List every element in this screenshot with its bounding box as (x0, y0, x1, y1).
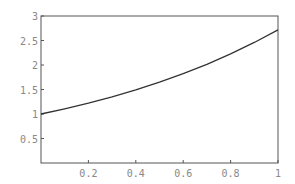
y-tick-label: 1 (32, 109, 38, 120)
y-tick-label: 3 (32, 11, 38, 22)
y-axis-ticks: 0.511.522.53 (20, 11, 44, 145)
x-tick-label: 0.4 (127, 168, 145, 179)
series-line-exp (41, 30, 278, 114)
x-tick-label: 0.2 (79, 168, 97, 179)
x-tick-label: 0.6 (174, 168, 192, 179)
x-tick-label: 0.8 (222, 168, 240, 179)
y-tick-label: 2.5 (20, 36, 38, 47)
x-tick-label: 1 (275, 168, 281, 179)
line-chart: 0.20.40.60.81 0.511.522.53 (0, 0, 295, 184)
y-tick-label: 0.5 (20, 134, 38, 145)
y-tick-label: 2 (32, 60, 38, 71)
y-tick-label: 1.5 (20, 85, 38, 96)
plot-frame (41, 16, 278, 163)
